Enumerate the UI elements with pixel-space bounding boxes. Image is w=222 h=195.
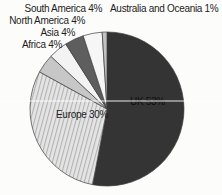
pie-chart-figure: South America 4% Australia and Oceania 1… <box>0 0 222 195</box>
slice-label-south-america: South America 4% <box>25 3 102 14</box>
slice-label-uk: UK 53% <box>130 96 165 107</box>
slice-label-asia: Asia 4% <box>40 27 75 38</box>
slice-label-north-america: North America 4% <box>9 15 85 26</box>
slice-label-australia-and-oceania: Australia and Oceania 1% <box>110 3 218 14</box>
slice-label-africa: Africa 4% <box>22 39 62 50</box>
pie-chart <box>0 0 222 195</box>
slice-label-europe: Europe 30% <box>56 109 108 120</box>
